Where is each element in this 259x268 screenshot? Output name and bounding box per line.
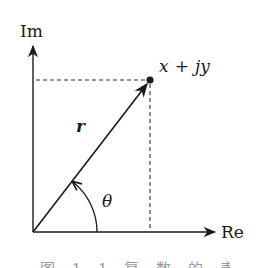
angle-theta-label: θ — [102, 191, 112, 211]
complex-plane-svg: Im Re x + jy r θ — [0, 0, 259, 268]
vector-r — [33, 84, 147, 232]
angle-arc — [73, 182, 97, 232]
point-dot — [146, 76, 153, 83]
figure-caption: 图 1.1 复 数 的 表 示 — [40, 259, 230, 268]
point-label-plus: + — [175, 56, 189, 76]
imaginary-axis-label: Im — [20, 21, 43, 41]
complex-plane-diagram: Im Re x + jy r θ 图 1.1 复 数 的 表 示 — [0, 0, 259, 268]
point-label-x: x — [159, 56, 169, 76]
vector-r-label: r — [76, 116, 86, 136]
point-label: x + jy — [159, 56, 210, 76]
point-label-jy: jy — [191, 56, 210, 76]
real-axis-label: Re — [221, 222, 244, 242]
